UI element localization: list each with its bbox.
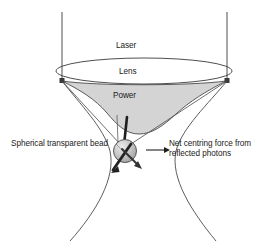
lens-label: Lens <box>119 67 137 77</box>
diagram-canvas <box>0 0 266 246</box>
net-force-label-line1: Net centring force from <box>169 139 251 148</box>
optical-tweezers-diagram: Laser Lens Power Spherical transparent b… <box>0 0 266 246</box>
spherical-transparent-bead-label: Spherical transparent bead <box>11 139 108 149</box>
laser-label: Laser <box>116 41 136 51</box>
power-label: Power <box>113 91 136 101</box>
lens-left-junction-mark <box>60 78 65 83</box>
net-force-label-line2: reflected photons <box>169 149 231 158</box>
lens-ellipse <box>56 58 232 84</box>
net-centring-force-label: Net centring force from reflected photon… <box>169 139 261 159</box>
net-force-arrow <box>146 147 170 153</box>
